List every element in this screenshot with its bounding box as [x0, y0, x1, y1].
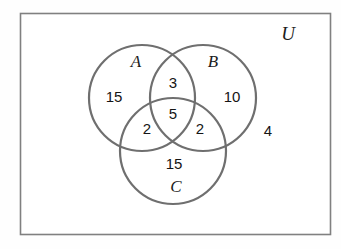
- venn-diagram-screen: U A B C 15 10 15 3 2 2 5 4: [0, 0, 341, 249]
- universe-rectangle: [21, 14, 331, 235]
- venn-diagram-canvas: [0, 0, 341, 249]
